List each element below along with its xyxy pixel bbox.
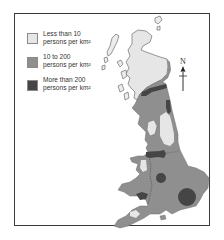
north-arrow-icon: [178, 57, 190, 93]
birmingham-area: [156, 173, 166, 183]
legend-label-medium: 10 to 200 persons per km²: [43, 53, 91, 69]
legend-item-low: Less than 10 persons per km²: [26, 30, 116, 50]
legend-item-medium: 10 to 200 persons per km²: [26, 53, 116, 73]
legend-label-high: More than 200 persons per km²: [43, 76, 91, 92]
isle-of-wight: [160, 215, 166, 220]
legend-high-line1: More than 200: [43, 76, 91, 84]
legend-swatch-medium: [27, 57, 38, 68]
legend-low-line2: persons per km²: [43, 38, 91, 46]
legend-item-high: More than 200 persons per km²: [26, 76, 116, 96]
legend-swatch-high: [27, 80, 38, 91]
legend-swatch-low: [27, 33, 38, 44]
legend-low-line1: Less than 10: [43, 30, 91, 38]
london-area: [178, 188, 196, 206]
north-arrow: N: [178, 57, 190, 93]
legend-high-line2: persons per km²: [43, 84, 91, 92]
legend-medium-line2: persons per km²: [43, 61, 91, 69]
legend-medium-line1: 10 to 200: [43, 53, 91, 61]
legend-label-low: Less than 10 persons per km²: [43, 30, 91, 46]
